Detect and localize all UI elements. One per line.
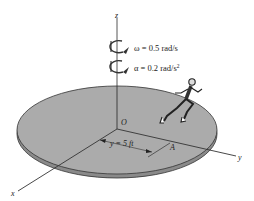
z-axis-label: z <box>114 11 119 20</box>
y-axis-label: y <box>237 153 242 162</box>
origin-label: O <box>121 118 127 127</box>
diagram-stage: z x y O ω = 0.5 rad/s α = 0.2 rad/s2 y =… <box>0 0 254 201</box>
angular-acceleration-label: α = 0.2 rad/s2 <box>134 63 180 73</box>
dimension-label: y = 5 ft <box>109 139 134 148</box>
x-axis-label: x <box>10 189 15 198</box>
labels-layer: z x y O ω = 0.5 rad/s α = 0.2 rad/s2 y =… <box>0 0 254 201</box>
angular-velocity-label: ω = 0.5 rad/s <box>134 43 178 53</box>
point-A-label: A <box>169 143 175 152</box>
